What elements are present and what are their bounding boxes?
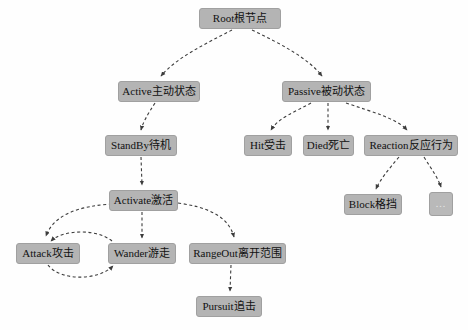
edge-active-standby <box>141 103 155 130</box>
edge-passive-reaction <box>346 103 407 130</box>
node-rangeout[interactable]: RangeOut离开范围 <box>189 243 286 264</box>
edge-layer <box>0 0 468 330</box>
node-active[interactable]: Active主动状态 <box>118 81 200 102</box>
edge-attack-wander <box>48 265 113 277</box>
node-attack[interactable]: Attack攻击 <box>16 243 80 264</box>
edge-root-active <box>161 30 232 76</box>
node-standby[interactable]: StandBy待机 <box>105 135 177 156</box>
behavior-tree-diagram: Root根节点 Active主动状态 Passive被动状态 StandBy待机… <box>0 0 468 330</box>
edge-wander-attack <box>51 232 112 241</box>
edge-passive-hit <box>271 103 311 130</box>
edge-reaction-block <box>376 157 399 189</box>
node-root[interactable]: Root根节点 <box>199 8 281 29</box>
node-died[interactable]: Died死亡 <box>303 135 354 156</box>
edge-activate-rangeout <box>178 203 234 237</box>
node-hit[interactable]: Hit受击 <box>244 135 292 156</box>
node-wander[interactable]: Wander游走 <box>108 243 176 264</box>
edge-root-passive <box>252 30 322 76</box>
node-reaction[interactable]: Reaction反应行为 <box>364 135 458 156</box>
node-activate[interactable]: Activate激活 <box>109 190 178 211</box>
edge-rangeout-pursuit <box>230 265 231 291</box>
edge-standby-activate <box>141 157 142 185</box>
edge-activate-attack <box>46 204 112 236</box>
edge-reaction-more <box>424 157 441 187</box>
node-more-ellipsis[interactable]: ... <box>429 192 453 216</box>
node-passive[interactable]: Passive被动状态 <box>282 81 371 102</box>
node-pursuit[interactable]: Pursuit追击 <box>196 296 262 317</box>
node-block[interactable]: Block格挡 <box>344 194 402 215</box>
